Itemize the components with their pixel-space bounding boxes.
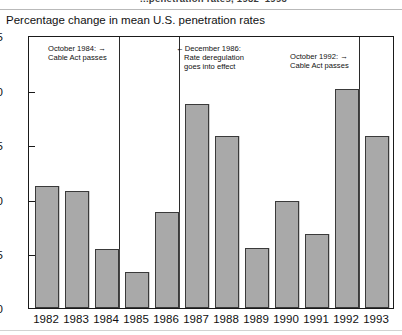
y-axis-label-2-0: 2.0 (0, 86, 3, 98)
y-axis-label-2-5: 2.5 (0, 31, 3, 43)
annotation-oct-1992-line1-text: October 1992: (290, 52, 338, 61)
annotation-oct-1992: October 1992: → Cable Act passes (290, 52, 349, 70)
annotation-dec-1986-line1-text: December 1986: (185, 44, 241, 53)
top-caption-text: ...penetration rates, 1982–1993 (140, 0, 287, 4)
annotation-dec-1986-line2: Rate deregulation (176, 53, 244, 62)
page-title: Percentage change in mean U.S. penetrati… (6, 14, 265, 26)
x-axis-label-1986: 1986 (153, 313, 179, 325)
y-axis-label-0-5: .5 (0, 249, 3, 261)
x-axis-label-1988: 1988 (213, 313, 239, 325)
y-axis-label-1-5: 1.5 (0, 140, 3, 152)
x-axis-label-1987: 1987 (183, 313, 209, 325)
arrow-left-icon: ← (176, 44, 183, 53)
bar-1992 (335, 89, 359, 309)
y-tick-1-5 (29, 146, 35, 147)
divider-1992-1993 (359, 37, 360, 308)
bar-1989 (245, 248, 269, 308)
annotation-oct-1984: October 1984: → Cable Act passes (48, 44, 107, 62)
bar-1985 (125, 272, 149, 308)
y-axis-label-0: 0 (0, 303, 3, 315)
bar-1993 (365, 136, 389, 309)
top-caption-strip: ...penetration rates, 1982–1993 (0, 0, 402, 9)
x-axis-label-1992: 1992 (333, 313, 359, 325)
bar-1984 (95, 249, 119, 308)
bar-1987 (185, 104, 209, 308)
annotation-dec-1986: ← December 1986: Rate deregulation goes … (176, 44, 244, 72)
divider-1986-1987 (179, 37, 180, 308)
annotation-oct-1984-line1: October 1984: → (48, 44, 107, 53)
x-axis-label-1993: 1993 (363, 313, 389, 325)
x-axis-label-1984: 1984 (93, 313, 119, 325)
x-axis-label-1989: 1989 (243, 313, 269, 325)
plot-inner (29, 37, 393, 308)
x-axis-label-1990: 1990 (273, 313, 299, 325)
chart-page: ...penetration rates, 1982–1993 Percenta… (0, 0, 402, 335)
bar-1983 (65, 191, 89, 308)
x-axis-label-1983: 1983 (63, 313, 89, 325)
bottom-divider-rule (0, 330, 402, 331)
bar-1986 (155, 212, 179, 308)
annotation-dec-1986-line1: ← December 1986: (176, 44, 244, 53)
arrow-right-icon: → (340, 52, 347, 61)
annotation-oct-1992-line1: October 1992: → (290, 52, 349, 61)
annotation-oct-1984-line2: Cable Act passes (48, 53, 107, 62)
annotation-oct-1984-line1-text: October 1984: (48, 44, 96, 53)
bar-1982 (35, 186, 59, 308)
arrow-right-icon: → (98, 44, 105, 53)
bar-1990 (275, 201, 299, 308)
y-tick-2-0 (29, 92, 35, 93)
bar-1991 (305, 234, 329, 308)
top-divider-rule (0, 9, 402, 10)
x-axis-label-1985: 1985 (123, 313, 149, 325)
annotation-dec-1986-line3: goes into effect (176, 62, 244, 71)
x-axis-label-1991: 1991 (303, 313, 329, 325)
x-axis-label-1982: 1982 (33, 313, 59, 325)
bar-1988 (215, 136, 239, 309)
y-axis-label-1-0: 1.0 (0, 195, 3, 207)
divider-1984-1985 (119, 37, 120, 308)
plot-area (28, 36, 394, 309)
annotation-oct-1992-line2: Cable Act passes (290, 61, 349, 70)
